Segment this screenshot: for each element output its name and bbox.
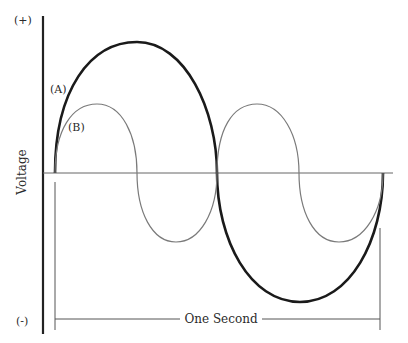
wave-b-label: (B) bbox=[68, 121, 85, 134]
wave-a-curve bbox=[55, 42, 383, 302]
negative-label: (-) bbox=[16, 315, 28, 328]
voltage-axis-label: Voltage bbox=[15, 149, 29, 195]
wave-a-label: (A) bbox=[50, 83, 67, 96]
positive-label: (+) bbox=[14, 14, 32, 27]
sine-wave-diagram: (+) (-) Voltage (A) (B) One Second bbox=[0, 0, 408, 343]
one-second-label: One Second bbox=[184, 312, 257, 326]
